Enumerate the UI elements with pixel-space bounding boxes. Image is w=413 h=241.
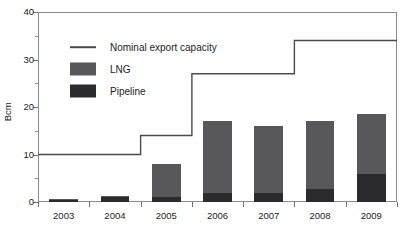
y-axis-tick-label: 30	[23, 55, 34, 65]
x-axis-tick	[397, 202, 398, 207]
line-series-layer	[38, 12, 397, 202]
y-axis-tick-label: 40	[23, 7, 34, 17]
y-axis-tick-label: 20	[23, 102, 34, 112]
legend-swatch-icon	[70, 63, 96, 76]
y-axis-tick-label: 10	[23, 150, 34, 160]
legend-item-label: Pipeline	[110, 86, 146, 97]
legend-item-label: LNG	[110, 64, 131, 75]
x-axis-tick-label: 2008	[309, 210, 330, 221]
x-axis-tick	[141, 202, 142, 207]
x-axis-tick-label: 2004	[104, 210, 125, 221]
y-axis-title: Bcm	[3, 92, 13, 132]
x-axis-tick	[346, 202, 347, 207]
x-axis-tick-label: 2007	[258, 210, 279, 221]
nominal-export-capacity-line	[38, 12, 397, 202]
chart-container: Bcm 010203040 20032004200520062007200820…	[0, 0, 413, 241]
legend-swatch-icon	[70, 85, 96, 98]
x-axis-tick-label: 2003	[53, 210, 74, 221]
x-axis-tick-label: 2005	[156, 210, 177, 221]
legend-item-label: Nominal export capacity	[110, 42, 217, 53]
y-axis: Bcm 010203040	[0, 0, 38, 241]
x-axis-tick	[294, 202, 295, 207]
legend-line-key-icon	[70, 46, 96, 48]
x-axis-tick	[243, 202, 244, 207]
x-axis-tick	[89, 202, 90, 207]
x-axis-tick	[192, 202, 193, 207]
x-axis-tick-label: 2009	[361, 210, 382, 221]
y-axis-tick-label: 0	[29, 197, 34, 207]
x-axis-tick-label: 2006	[207, 210, 228, 221]
x-axis-tick	[38, 202, 39, 207]
